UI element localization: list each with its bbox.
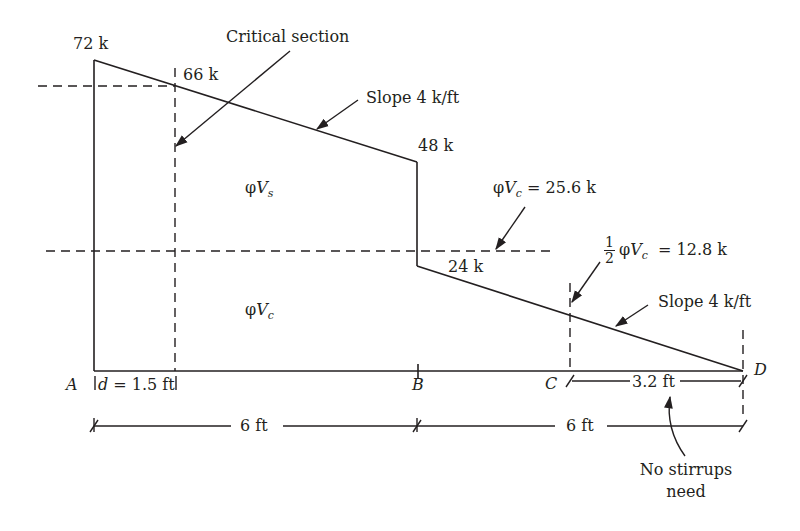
point-d-label: D [754,362,767,378]
slope-upper-label: Slope 4 k/ft [366,90,459,106]
shear-48k-label: 48 k [418,138,453,154]
point-a-label: A [66,377,78,393]
slope-upper-leader [317,100,358,129]
half-phi-vc-value-label: 12φVc = 12.8 k [604,235,727,265]
shear-line-ab [94,60,417,162]
shear-72k-label: 72 k [73,36,108,52]
shear-diagram-lines [0,0,800,531]
point-b-label: B [412,377,424,393]
span-cd-label: 3.2 ft [632,374,675,390]
span-bd-label: 6 ft [566,418,594,434]
slope-lower-label: Slope 4 k/ft [658,294,751,310]
phi-vc-leader [496,207,525,249]
phi-vc-value-label: φVc = 25.6 k [493,180,596,199]
point-c-label: C [545,376,557,392]
d-dimension-label: d = 1.5 ft [98,377,175,393]
half-phi-vc-leader [572,262,600,302]
slope-lower-leader [616,305,648,326]
phi-vc-region-label: φVc [245,302,274,321]
no-stirrups-label-line1: No stirrups [636,462,736,478]
shear-66k-label: 66 k [183,67,218,83]
span-ab-label: 6 ft [240,418,268,434]
critical-section-label: Critical section [226,29,349,45]
no-stirrups-label-line2: need [636,484,736,500]
shear-line-bd [417,266,743,371]
phi-vs-region-label: φVs [245,180,273,199]
shear-24k-label: 24 k [448,259,483,275]
